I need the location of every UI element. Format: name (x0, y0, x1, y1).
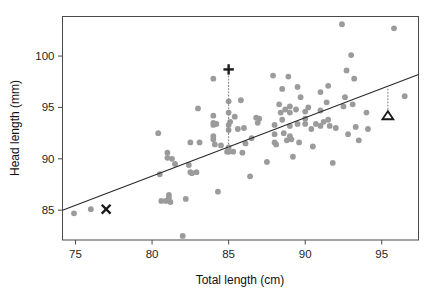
data-point (391, 25, 397, 31)
data-point (279, 117, 285, 123)
data-point (256, 116, 262, 122)
data-point (272, 131, 278, 137)
data-point (327, 123, 333, 129)
data-point (212, 142, 218, 148)
y-tick-label: 100 (35, 50, 54, 62)
data-point (285, 74, 291, 80)
data-point (232, 114, 238, 120)
data-point (287, 110, 293, 116)
data-point (364, 110, 370, 116)
data-point (402, 93, 408, 99)
data-point (238, 97, 244, 103)
data-point (281, 130, 287, 136)
data-point (71, 210, 77, 216)
data-point (213, 121, 219, 127)
data-point (230, 149, 236, 155)
plus-marker (223, 64, 233, 74)
data-point (302, 121, 308, 127)
y-axis-ticks: 859095100 (35, 50, 62, 216)
data-point (287, 104, 293, 110)
data-point (183, 196, 189, 202)
triangle-marker (382, 111, 393, 119)
data-point (344, 68, 350, 74)
data-point (365, 126, 371, 132)
cross-marker (102, 205, 111, 214)
data-point (289, 136, 295, 142)
data-point (296, 139, 302, 145)
x-axis-title: Total length (cm) (196, 273, 285, 287)
data-point (333, 125, 339, 131)
data-point (273, 142, 279, 148)
data-point (210, 76, 216, 82)
data-point (298, 94, 304, 100)
data-point (325, 117, 331, 123)
data-point (350, 101, 356, 107)
x-tick-label: 75 (69, 248, 82, 260)
plot-canvas: 7580859095 859095100 Total length (cm) H… (0, 0, 439, 300)
data-point (169, 156, 175, 162)
data-point (345, 131, 351, 137)
data-point (210, 136, 216, 142)
y-tick-label: 95 (42, 101, 55, 113)
data-point (305, 105, 311, 111)
data-point (356, 137, 362, 143)
data-point (264, 159, 270, 165)
data-point (180, 233, 186, 239)
data-point (310, 144, 316, 150)
data-point (168, 199, 174, 205)
data-point (279, 86, 285, 92)
data-point (290, 154, 296, 160)
data-point (295, 84, 301, 90)
data-point (325, 83, 331, 89)
data-point (215, 189, 221, 195)
data-point (155, 130, 161, 136)
data-point (353, 124, 359, 130)
data-point (318, 89, 324, 95)
data-point (187, 139, 193, 145)
data-point (342, 94, 348, 100)
regression-line (63, 75, 419, 211)
data-point (324, 99, 330, 105)
data-point (218, 143, 224, 149)
x-axis-ticks: 7580859095 (69, 240, 388, 260)
data-point (197, 139, 203, 145)
data-point (348, 52, 354, 58)
data-point (210, 113, 216, 119)
y-tick-label: 85 (42, 204, 55, 216)
data-point (194, 169, 200, 175)
data-point (195, 106, 201, 112)
data-point (235, 126, 241, 132)
data-point (272, 122, 278, 128)
data-point-group (71, 21, 408, 238)
data-point (351, 76, 357, 82)
data-point (164, 150, 170, 156)
data-point (330, 160, 336, 166)
data-point (308, 126, 314, 132)
data-point (270, 73, 276, 79)
data-point (240, 150, 246, 156)
data-point (293, 107, 299, 113)
x-tick-label: 80 (146, 248, 159, 260)
y-axis-title: Head length (mm) (8, 80, 22, 176)
data-point (247, 173, 253, 179)
data-point (276, 101, 282, 107)
scatter-plot-figure: 7580859095 859095100 Total length (cm) H… (0, 0, 439, 300)
x-tick-label: 90 (299, 248, 312, 260)
x-tick-label: 95 (375, 248, 388, 260)
data-point (241, 125, 247, 131)
y-tick-label: 90 (42, 153, 55, 165)
data-point (339, 21, 345, 27)
x-tick-label: 85 (222, 248, 235, 260)
data-point (88, 206, 94, 212)
annotation-marker-group (102, 64, 394, 213)
